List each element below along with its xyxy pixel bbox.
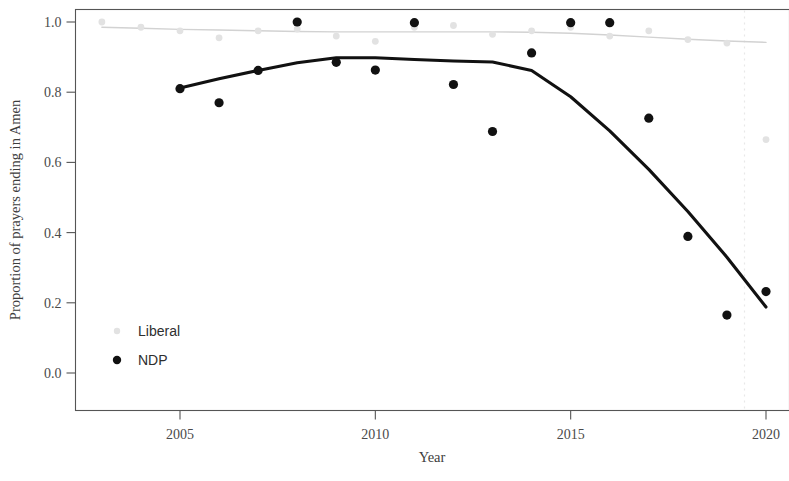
ndp-data-point [488, 127, 497, 136]
ndp-data-point [410, 18, 419, 27]
liberal-data-point [98, 19, 105, 26]
liberal-data-point [138, 24, 145, 31]
y-tick-label: 0.8 [44, 85, 62, 100]
ndp-data-point [527, 48, 536, 57]
y-tick-label: 0.0 [44, 366, 62, 381]
x-axis: 2005201020152020 [166, 411, 780, 442]
series-liberal [98, 19, 769, 143]
ndp-data-point [214, 98, 223, 107]
legend-marker-liberal [114, 328, 120, 334]
ndp-data-point [644, 114, 653, 123]
liberal-data-point [333, 33, 340, 40]
legend-label-liberal: Liberal [138, 323, 180, 339]
x-tick-label: 2020 [752, 427, 780, 442]
y-tick-label: 0.4 [44, 226, 62, 241]
scatter-plot-canvas: 0.00.20.40.60.81.0 2005201020152020 Year… [0, 0, 789, 481]
liberal-data-point [372, 38, 379, 45]
chart-legend: Liberal NDP [113, 323, 180, 368]
liberal-data-point [216, 34, 223, 41]
chart-figure: 0.00.20.40.60.81.0 2005201020152020 Year… [0, 0, 789, 481]
series-ndp [175, 17, 770, 319]
liberal-data-point [177, 27, 184, 34]
x-tick-label: 2010 [361, 427, 389, 442]
legend-marker-ndp [113, 356, 121, 364]
liberal-data-point [489, 31, 496, 38]
x-axis-title: Year [419, 449, 446, 465]
liberal-data-point [450, 22, 457, 29]
liberal-data-point [528, 27, 535, 34]
x-tick-label: 2015 [557, 427, 585, 442]
liberal-data-point [645, 27, 652, 34]
liberal-data-point [684, 36, 691, 43]
ndp-data-point [371, 65, 380, 74]
y-tick-label: 0.2 [44, 296, 62, 311]
x-tick-label: 2005 [166, 427, 194, 442]
ndp-data-point [449, 80, 458, 89]
ndp-data-point [332, 58, 341, 67]
ndp-data-point [722, 310, 731, 319]
liberal-data-point [606, 33, 613, 40]
y-tick-label: 1.0 [44, 15, 62, 30]
liberal-data-point [255, 27, 262, 34]
liberal-data-point [724, 40, 731, 47]
ndp-data-point [293, 17, 302, 26]
liberal-data-point [294, 26, 301, 33]
liberal-trend-line [102, 27, 766, 42]
ndp-data-point [761, 287, 770, 296]
plot-frame [76, 10, 789, 411]
y-axis: 0.00.20.40.60.81.0 [44, 15, 76, 381]
ndp-data-point [254, 66, 263, 75]
liberal-data-point [763, 136, 770, 143]
ndp-data-point [683, 232, 692, 241]
ndp-data-point [175, 84, 184, 93]
ndp-data-point [605, 18, 614, 27]
legend-label-ndp: NDP [138, 352, 168, 368]
y-tick-label: 0.6 [44, 155, 62, 170]
ndp-data-point [566, 18, 575, 27]
ndp-trend-line [180, 58, 766, 307]
y-axis-title: Proportion of prayers ending in Amen [7, 99, 23, 320]
